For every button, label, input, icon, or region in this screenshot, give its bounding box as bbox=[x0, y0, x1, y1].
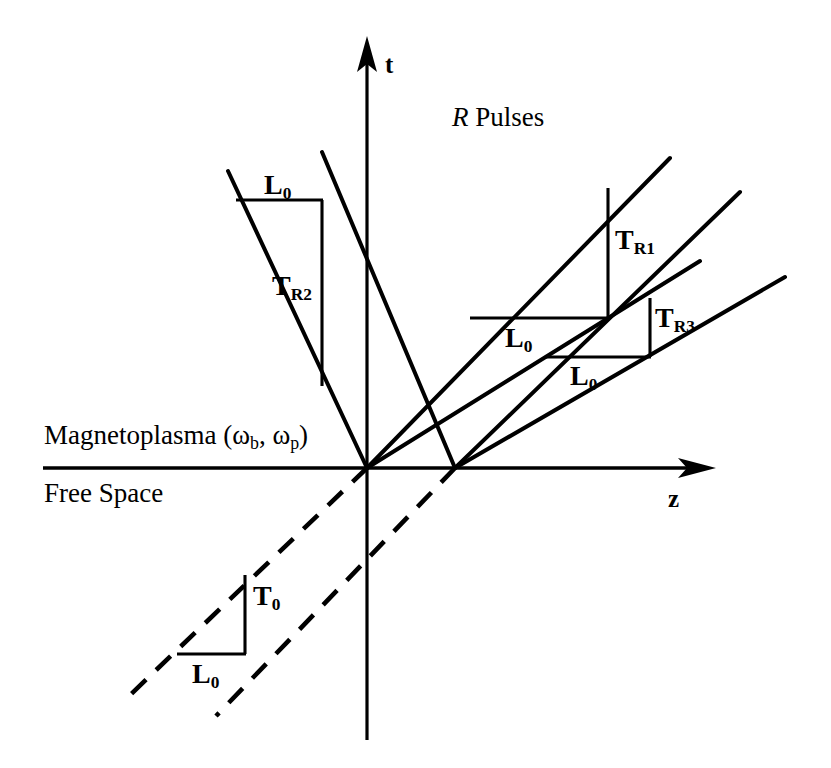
dashed-rays-group bbox=[128, 468, 455, 716]
measure-label-l0-tr3: L0 bbox=[570, 362, 597, 390]
region-label-magnetoplasma: Magnetoplasma (ωb, ωp) bbox=[44, 422, 308, 449]
omega-p-symbol: ω bbox=[272, 420, 290, 450]
ray-up-right-mid bbox=[367, 261, 700, 468]
ray-incident-upper bbox=[128, 468, 367, 697]
axes-group bbox=[43, 36, 716, 740]
spacetime-diagram-canvas bbox=[0, 0, 831, 768]
measure-label-l0-tr1: L0 bbox=[505, 324, 532, 352]
region-label-free-space: Free Space bbox=[44, 480, 163, 507]
measure-label-tr3: TR3 bbox=[655, 304, 695, 332]
measure-label-tr2: TR2 bbox=[272, 272, 312, 300]
time-axis-label: t bbox=[385, 52, 393, 77]
t0-symbol: T bbox=[253, 580, 272, 611]
ray-incident-lower bbox=[216, 468, 455, 716]
tr2-subscript: R2 bbox=[291, 285, 312, 304]
magnetoplasma-suffix: ) bbox=[299, 420, 308, 450]
ray-up-right-steep bbox=[367, 158, 670, 468]
l0-tr1-subscript: 0 bbox=[524, 337, 533, 356]
t0-subscript: 0 bbox=[272, 595, 281, 614]
l0-tr3-subscript: 0 bbox=[589, 375, 598, 394]
l0-tr2-subscript: 0 bbox=[283, 184, 292, 203]
measure-label-t0: T0 bbox=[253, 582, 280, 610]
figure-title-italic: R bbox=[452, 102, 469, 132]
magnetoplasma-separator: , bbox=[259, 420, 273, 450]
tr1-subscript: R1 bbox=[634, 239, 655, 258]
tr2-symbol: T bbox=[272, 270, 291, 301]
tr3-subscript: R3 bbox=[674, 317, 695, 336]
figure-title: R Pulses bbox=[452, 104, 544, 131]
ray-up-left-inner bbox=[322, 152, 455, 468]
figure-root: t z R Pulses Magnetoplasma (ωb, ωp) Free… bbox=[0, 0, 831, 768]
l0-t0-symbol: L bbox=[192, 658, 211, 689]
tr1-symbol: T bbox=[615, 224, 634, 255]
l0-tr3-symbol: L bbox=[570, 360, 589, 391]
magnetoplasma-prefix: Magnetoplasma ( bbox=[44, 420, 232, 450]
omega-b-subscript: b bbox=[250, 433, 259, 453]
l0-t0-subscript: 0 bbox=[211, 673, 220, 692]
measure-label-tr1: TR1 bbox=[615, 226, 655, 254]
measure-label-l0-tr2: L0 bbox=[264, 171, 291, 199]
l0-tr2-symbol: L bbox=[264, 169, 283, 200]
measure-label-l0-t0: L0 bbox=[192, 660, 219, 688]
omega-p-subscript: p bbox=[290, 433, 299, 453]
tr3-symbol: T bbox=[655, 302, 674, 333]
l0-tr1-symbol: L bbox=[505, 322, 524, 353]
space-axis-label: z bbox=[668, 486, 679, 511]
omega-b-symbol: ω bbox=[232, 420, 250, 450]
figure-title-rest: Pulses bbox=[469, 102, 545, 132]
